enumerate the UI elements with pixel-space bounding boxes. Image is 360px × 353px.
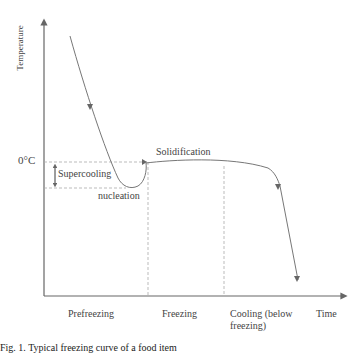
phase-freezing: Freezing bbox=[162, 308, 197, 319]
x-axis-label: Time bbox=[316, 308, 337, 319]
phase-cooling-line2: freezing) bbox=[230, 320, 293, 332]
phase-cooling: Cooling (below freezing) bbox=[230, 308, 293, 332]
phase-prefreezing: Prefreezing bbox=[68, 308, 114, 319]
phase-cooling-line1: Cooling (below bbox=[230, 308, 293, 320]
y-axis-label: Temperature bbox=[10, 8, 30, 88]
arrow-down-icon bbox=[294, 276, 300, 282]
solidification-label: Solidification bbox=[156, 146, 210, 157]
figure-caption: Fig. 1. Typical freezing curve of a food… bbox=[0, 342, 177, 353]
supercooling-label: Supercooling bbox=[58, 168, 111, 179]
freezing-curve bbox=[70, 36, 298, 280]
nucleation-label: nucleation bbox=[98, 190, 140, 201]
zero-degree-tick: 0°C bbox=[18, 154, 35, 166]
